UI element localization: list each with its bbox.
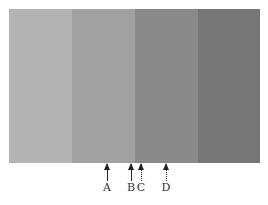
gray-band-4 xyxy=(198,9,260,163)
marker-label-c: C xyxy=(134,181,148,194)
marker-label-d: D xyxy=(159,181,173,194)
gray-band-2 xyxy=(72,9,135,163)
gray-band-3 xyxy=(135,9,198,163)
gray-band-1 xyxy=(9,9,72,163)
arrow-a-icon xyxy=(107,164,108,181)
arrow-d-icon xyxy=(166,164,167,181)
marker-label-a: A xyxy=(100,181,114,194)
arrow-c-icon xyxy=(141,164,142,181)
arrow-b-icon xyxy=(131,164,132,181)
